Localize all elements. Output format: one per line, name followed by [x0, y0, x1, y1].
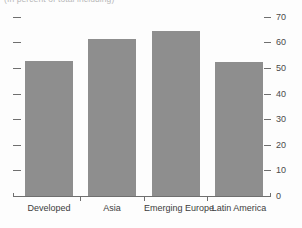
- category-tick-1: [80, 197, 81, 201]
- right-axis-tick-60: [264, 42, 271, 43]
- right-axis-label-10: 10: [276, 166, 286, 175]
- right-axis-tick-50: [264, 68, 271, 69]
- bar-developed: [25, 61, 73, 196]
- right-axis-tick-10: [264, 170, 271, 171]
- right-axis-label-50: 50: [276, 64, 286, 73]
- category-label-latin-america: Latin America: [207, 203, 271, 213]
- right-axis-label-0: 0: [276, 192, 281, 201]
- category-tick-2: [144, 197, 145, 201]
- right-axis-label-20: 20: [276, 141, 286, 150]
- category-tick-3: [207, 197, 208, 201]
- left-axis-tick-20: [13, 145, 21, 146]
- right-axis-label-40: 40: [276, 90, 286, 99]
- left-axis-tick-30: [13, 119, 21, 120]
- bar-latin-america: [215, 62, 263, 196]
- plot-area: 70 60 50 40 30 20 10 0 Developed Asia Em…: [0, 0, 302, 228]
- category-label-developed: Developed: [13, 203, 85, 213]
- x-axis-baseline: [13, 196, 271, 197]
- left-axis-tick-50: [13, 68, 21, 69]
- right-axis-label-70: 70: [276, 13, 286, 22]
- bar-asia: [88, 39, 136, 196]
- bar-chart-figure: (In percent of total including) 70 60 50…: [0, 0, 302, 228]
- right-axis-label-30: 30: [276, 115, 286, 124]
- right-axis-tick-30: [264, 119, 271, 120]
- left-axis-tick-70: [13, 17, 21, 18]
- right-axis-label-60: 60: [276, 38, 286, 47]
- right-axis-tick-70: [264, 17, 271, 18]
- right-axis-tick-20: [264, 145, 271, 146]
- category-label-asia: Asia: [80, 203, 144, 213]
- bar-emerging-europe: [152, 31, 200, 196]
- x-axis-left-cap: [13, 193, 14, 197]
- category-label-emerging-europe: Emerging Europe: [144, 203, 208, 213]
- left-axis-tick-10: [13, 170, 21, 171]
- left-axis-tick-60: [13, 42, 21, 43]
- x-axis-right-cap: [270, 193, 271, 197]
- left-axis-tick-40: [13, 94, 21, 95]
- right-axis-tick-40: [264, 94, 271, 95]
